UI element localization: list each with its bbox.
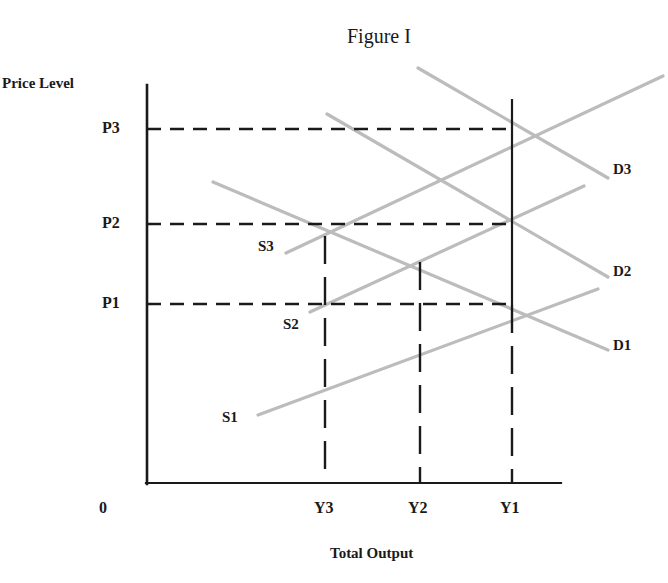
- y-tick-label-p2: P2: [102, 215, 120, 231]
- supply-curve-s1: [258, 289, 598, 415]
- curve-label-s1: S1: [222, 410, 238, 425]
- figure-container: Figure I Price Level Total Output 0 P3 P…: [0, 0, 668, 583]
- axes-group: [146, 85, 561, 484]
- output-guides-group: [325, 236, 512, 483]
- y-axis-title: Price Level: [2, 76, 74, 91]
- curve-label-d3: D3: [613, 162, 631, 177]
- supply-curves-group: [258, 76, 663, 415]
- figure-canvas: [0, 0, 668, 583]
- curve-label-s3: S3: [258, 239, 274, 254]
- figure-title: Figure I: [347, 26, 411, 46]
- supply-curve-s2: [310, 186, 584, 312]
- demand-curve-d1: [213, 182, 608, 350]
- y-tick-label-p1: P1: [102, 295, 120, 311]
- origin-label: 0: [99, 500, 107, 516]
- x-tick-label-y1: Y1: [500, 500, 520, 516]
- curve-label-s2: S2: [283, 317, 299, 332]
- x-tick-label-y2: Y2: [408, 500, 428, 516]
- x-tick-label-y3: Y3: [314, 500, 334, 516]
- curve-label-d1: D1: [613, 338, 631, 353]
- curve-label-d2: D2: [613, 264, 631, 279]
- price-guides-group: [147, 129, 512, 304]
- x-axis-title: Total Output: [330, 546, 413, 561]
- y-tick-label-p3: P3: [102, 120, 120, 136]
